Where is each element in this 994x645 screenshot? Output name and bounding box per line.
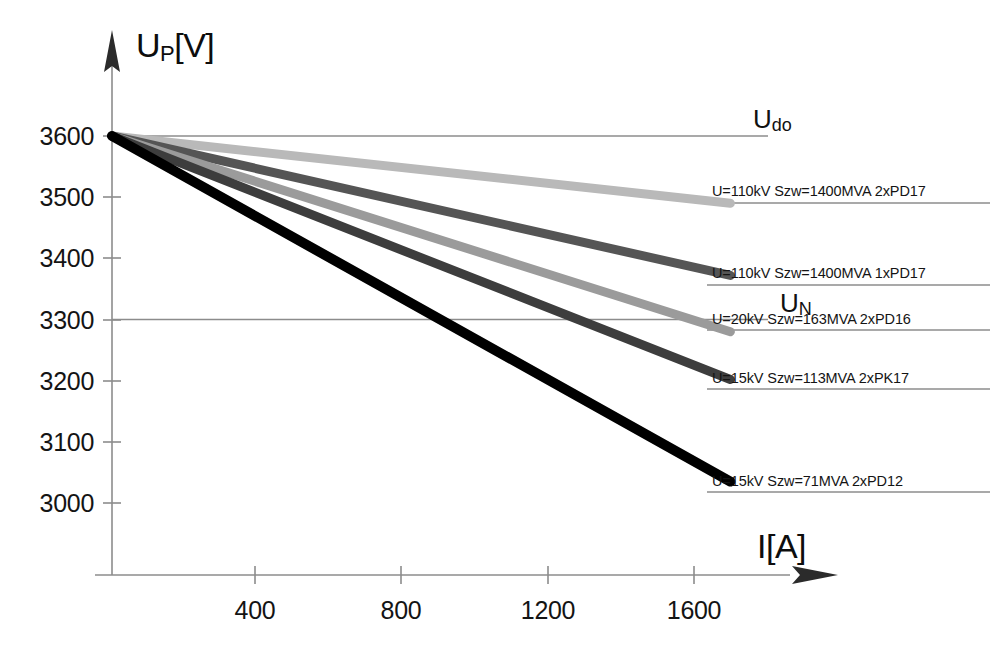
y-axis-title-sub: P <box>160 41 174 66</box>
reference-label-udo: Udo <box>753 104 792 135</box>
reference-label-udo-main: U <box>753 104 772 134</box>
y-axis-title: UP[V] <box>136 26 214 65</box>
y-tick-label-3600: 3600 <box>22 122 94 151</box>
series-line-4 <box>112 136 730 482</box>
chart-root: UP[V] I[A] 3600 3500 3400 3300 3200 3100… <box>0 0 994 645</box>
x-tick-label-800: 800 <box>381 596 422 625</box>
x-axis-title: I[A] <box>757 527 806 566</box>
reference-label-udo-sub: do <box>772 115 792 135</box>
y-tick-label-3300: 3300 <box>22 306 94 335</box>
series-label-0: U=110kV Szw=1400MVA 2xPD17 <box>712 183 926 199</box>
y-tick-label-3000: 3000 <box>22 489 94 518</box>
y-tick-label-3500: 3500 <box>22 183 94 212</box>
x-tick-label-1600: 1600 <box>667 596 721 625</box>
series-label-2: U=20kV Szw=163MVA 2xPD16 <box>712 311 911 327</box>
y-axis-title-main: U <box>136 26 160 64</box>
x-axis-arrow-icon <box>792 566 838 584</box>
series-label-3: U=15kV Szw=113MVA 2xPK17 <box>712 370 909 386</box>
y-axis-title-unit: [V] <box>174 26 214 64</box>
y-tick-label-3400: 3400 <box>22 244 94 273</box>
y-tick-label-3100: 3100 <box>22 428 94 457</box>
series-label-1: U=110kV Szw=1400MVA 1xPD17 <box>712 265 926 281</box>
x-tick-label-1200: 1200 <box>521 596 575 625</box>
y-tick-label-3200: 3200 <box>22 367 94 396</box>
series-label-underlines <box>707 203 990 492</box>
y-axis-arrow-icon <box>104 30 120 72</box>
x-tick-label-400: 400 <box>235 596 276 625</box>
series-label-4: U=15kV Szw=71MVA 2xPD12 <box>712 473 903 489</box>
